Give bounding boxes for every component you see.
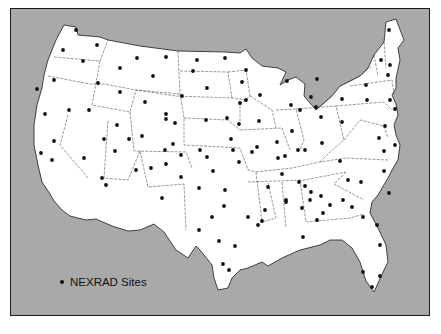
- nexrad-site-dot-icon: [82, 156, 86, 160]
- nexrad-site-dot-icon: [301, 235, 305, 239]
- nexrad-site-dot-icon: [346, 178, 350, 182]
- nexrad-site-dot-icon: [113, 149, 117, 153]
- nexrad-site-dot-icon: [140, 134, 144, 138]
- nexrad-site-dot-icon: [350, 205, 354, 209]
- nexrad-site-dot-icon: [135, 56, 139, 60]
- nexrad-site-dot-icon: [379, 58, 383, 62]
- nexrad-site-dot-icon: [244, 68, 248, 72]
- nexrad-site-dot-icon: [227, 268, 231, 272]
- nexrad-site-dot-icon: [149, 166, 153, 170]
- nexrad-site-dot-icon: [308, 198, 312, 202]
- nexrad-site-dot-icon: [378, 243, 382, 247]
- nexrad-site-dot-icon: [361, 215, 365, 219]
- nexrad-site-dot-icon: [388, 98, 392, 102]
- nexrad-site-dot-icon: [87, 108, 91, 112]
- nexrad-site-dot-icon: [382, 169, 386, 173]
- nexrad-site-dot-icon: [260, 219, 264, 223]
- nexrad-site-dot-icon: [143, 100, 147, 104]
- nexrad-site-dot-icon: [296, 148, 300, 152]
- nexrad-site-dot-icon: [387, 28, 391, 32]
- nexrad-site-dot-icon: [383, 124, 387, 128]
- nexrad-site-dot-icon: [237, 160, 241, 164]
- nexrad-site-dot-icon: [205, 86, 209, 90]
- nexrad-site-dot-icon: [359, 180, 363, 184]
- nexrad-site-dot-icon: [180, 94, 184, 98]
- nexrad-site-dot-icon: [231, 148, 235, 152]
- legend: NEXRAD Sites: [60, 276, 147, 288]
- nexrad-site-dot-icon: [197, 186, 201, 190]
- nexrad-site-dot-icon: [388, 63, 392, 67]
- nexrad-site-dot-icon: [319, 115, 323, 119]
- nexrad-site-dot-icon: [222, 204, 226, 208]
- nexrad-site-dot-icon: [340, 97, 344, 101]
- nexrad-site-dot-icon: [171, 142, 175, 146]
- nexrad-site-dot-icon: [74, 28, 78, 32]
- nexrad-site-dot-icon: [179, 175, 183, 179]
- nexrad-site-dot-icon: [179, 153, 183, 157]
- nexrad-site-dot-icon: [283, 154, 287, 158]
- nexrad-site-dot-icon: [118, 66, 122, 70]
- nexrad-site-dot-icon: [280, 172, 284, 176]
- nexrad-site-dot-icon: [246, 215, 250, 219]
- nexrad-site-dot-icon: [284, 200, 288, 204]
- nexrad-site-dot-icon: [210, 215, 214, 219]
- nexrad-site-dot-icon: [81, 59, 85, 63]
- nexrad-site-dot-icon: [52, 78, 56, 82]
- nexrad-site-dot-icon: [285, 79, 289, 83]
- nexrad-site-dot-icon: [223, 188, 227, 192]
- nexrad-site-dot-icon: [50, 158, 54, 162]
- nexrad-site-dot-icon: [303, 184, 307, 188]
- nexrad-site-dot-icon: [151, 74, 155, 78]
- nexrad-site-dot-icon: [35, 87, 39, 91]
- nexrad-site-dot-icon: [386, 73, 390, 77]
- nexrad-site-dot-icon: [382, 149, 386, 153]
- nexrad-site-dot-icon: [393, 143, 397, 147]
- legend-label: NEXRAD Sites: [70, 276, 147, 288]
- nexrad-site-dot-icon: [173, 121, 177, 125]
- nexrad-site-dot-icon: [164, 55, 168, 59]
- nexrad-site-dot-icon: [237, 122, 241, 126]
- nexrad-site-dot-icon: [115, 123, 119, 127]
- nexrad-site-dot-icon: [225, 116, 229, 120]
- nexrad-site-dot-icon: [263, 208, 267, 212]
- nexrad-site-dot-icon: [164, 112, 168, 116]
- nexrad-site-dot-icon: [52, 139, 56, 143]
- nexrad-site-dot-icon: [340, 120, 344, 124]
- nexrad-site-dot-icon: [164, 162, 168, 166]
- nexrad-site-dot-icon: [221, 262, 225, 266]
- nexrad-site-dot-icon: [315, 77, 319, 81]
- nexrad-site-dot-icon: [315, 218, 319, 222]
- nexrad-site-dot-icon: [217, 239, 221, 243]
- nexrad-site-dot-icon: [104, 183, 108, 187]
- nexrad-site-dot-icon: [205, 155, 209, 159]
- nexrad-site-dot-icon: [233, 244, 237, 248]
- nexrad-site-dot-icon: [303, 148, 307, 152]
- nexrad-site-dot-icon: [240, 80, 244, 84]
- nexrad-site-dot-icon: [276, 156, 280, 160]
- nexrad-site-dot-icon: [328, 203, 332, 207]
- nexrad-site-dot-icon: [300, 206, 304, 210]
- nexrad-site-dot-icon: [266, 185, 270, 189]
- nexrad-site-dot-icon: [204, 118, 208, 122]
- nexrad-site-dot-icon: [377, 136, 381, 140]
- nexrad-site-dot-icon: [257, 119, 261, 123]
- nexrad-site-dot-icon: [387, 191, 391, 195]
- nexrad-site-dot-icon: [134, 168, 138, 172]
- nexrad-site-dot-icon: [298, 108, 302, 112]
- nexrad-site-dot-icon: [319, 194, 323, 198]
- nexrad-site-dot-icon: [197, 228, 201, 232]
- nexrad-site-dot-icon: [297, 180, 301, 184]
- nexrad-site-dot-icon: [127, 137, 131, 141]
- nexrad-site-dot-icon: [163, 148, 167, 152]
- nexrad-site-dot-icon: [96, 81, 100, 85]
- nexrad-site-dot-icon: [289, 103, 293, 107]
- nexrad-site-dot-icon: [43, 112, 47, 116]
- nexrad-site-dot-icon: [314, 105, 318, 109]
- nexrad-site-dot-icon: [211, 169, 215, 173]
- nexrad-site-dot-icon: [191, 69, 195, 73]
- nexrad-site-dot-icon: [341, 198, 345, 202]
- nexrad-site-dot-icon: [338, 159, 342, 163]
- site-dot-icon: [60, 280, 64, 284]
- nexrad-site-dot-icon: [67, 108, 71, 112]
- nexrad-site-dot-icon: [361, 270, 365, 274]
